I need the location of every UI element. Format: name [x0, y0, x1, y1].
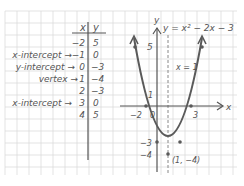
- table-cell-y: 5: [93, 38, 99, 48]
- point: [166, 152, 170, 156]
- table-cell-x: −1: [72, 50, 85, 60]
- table-cell-x: 2: [79, 86, 85, 96]
- table-row-label: y-intercept →: [15, 62, 76, 72]
- point: [133, 45, 137, 49]
- tick-label-y-neg4: −4: [140, 151, 152, 160]
- table-cell-x: 1: [79, 74, 85, 84]
- equation-label: y = x² − 2x − 3: [162, 23, 234, 33]
- table-row-label: x-intercept →: [11, 50, 72, 60]
- tick-label-y-5: 5: [147, 42, 153, 52]
- table-header-x: x: [79, 22, 86, 33]
- tick-label-x-0: 0: [150, 111, 155, 120]
- point: [144, 104, 148, 108]
- y-axis-label: y: [153, 15, 160, 25]
- tick-label-y-1: 1: [148, 91, 153, 100]
- point: [178, 140, 182, 144]
- xy-table: x y −2 5 x-intercept → −1 0 y-intercept …: [11, 22, 106, 160]
- tick-label-x-neg2: −2: [130, 111, 142, 120]
- point: [200, 45, 204, 49]
- table-cell-x: 3: [79, 98, 85, 108]
- parabola-figure: x y −2 5 x-intercept → −1 0 y-intercept …: [0, 0, 244, 186]
- table-cell-y: 0: [93, 98, 99, 108]
- table-cell-x: 0: [79, 62, 85, 72]
- table-cell-y: 0: [93, 50, 99, 60]
- axis-of-symmetry-label: x = 1: [175, 63, 198, 72]
- table-cell-y: −3: [91, 62, 105, 72]
- point: [189, 104, 193, 108]
- x-axis-label: x: [225, 102, 232, 112]
- table-cell-y: −3: [91, 86, 105, 96]
- tick-label-x-3: 3: [193, 111, 198, 120]
- table-cell-x: 4: [79, 110, 85, 120]
- table-header-y: y: [92, 22, 100, 33]
- table-row-label: x-intercept →: [11, 98, 72, 108]
- table-cell-y: 5: [93, 110, 99, 120]
- table-cell-x: −2: [72, 38, 86, 48]
- point: [155, 140, 159, 144]
- tick-label-y-neg3: −3: [140, 139, 152, 148]
- table-row-label: vertex →: [39, 74, 79, 84]
- table-cell-y: −4: [91, 74, 105, 84]
- vertex-label: (1, −4): [172, 156, 200, 165]
